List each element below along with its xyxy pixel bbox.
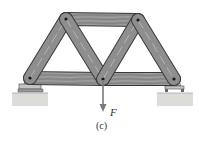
figure-caption: (c) — [96, 120, 107, 131]
left-ground — [12, 93, 48, 106]
pin-D — [136, 18, 139, 21]
pin-A — [28, 76, 31, 79]
force-label: F — [110, 106, 117, 118]
truss-members — [30, 19, 174, 79]
pin-E — [172, 77, 175, 80]
right-ground — [157, 93, 193, 106]
pin-B — [64, 17, 67, 20]
